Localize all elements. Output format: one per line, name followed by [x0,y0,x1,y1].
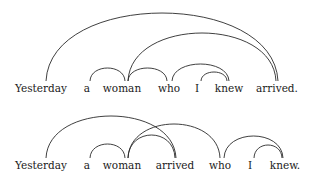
word-yesterday: Yesterday [15,83,67,94]
word-who: who [209,160,231,171]
word-i: I [248,160,252,171]
word-arrived: arrived. [256,83,298,94]
dependency-arc-i-knew [254,145,282,158]
word-yesterday: Yesterday [15,160,67,171]
word-a: a [84,83,90,94]
dependency-arc-who-knew [172,64,229,81]
dependency-arc-a-woman [90,68,125,81]
dependency-arc-woman-arrived [128,33,276,81]
dependency-arc-woman-arrived [128,135,175,158]
dependency-arc-woman-who [128,68,167,81]
word-woman: woman [103,83,141,94]
dependency-arc-a-woman [90,144,125,158]
word-woman: woman [103,160,141,171]
dependency-arc-yesterday-arrived [46,116,176,158]
dependency-arc-who-knew [224,136,283,158]
word-knew: knew. [270,160,300,171]
word-a: a [84,160,90,171]
dependency-arc-yesterday-arrived [46,13,278,81]
dependency-arc-i-knew [201,72,227,81]
word-who: who [158,83,180,94]
word-i: I [195,83,199,94]
dependency-diagram-figure: Yesterday a woman who I knew arrived. Ye… [0,0,313,173]
word-knew: knew [215,83,243,94]
word-arrived: arrived [156,160,195,171]
